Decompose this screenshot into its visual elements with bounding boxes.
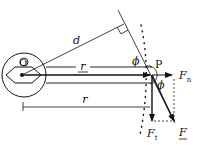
angle-top-label: ϕ	[132, 55, 140, 68]
dotted-arc	[140, 25, 146, 135]
tangential-force-label: Ft	[146, 127, 158, 142]
point-label: P	[155, 58, 163, 71]
torque-diagram: r r d ϕ ϕ P O Fn Ft F	[0, 0, 203, 148]
position-vector-label: r	[80, 60, 86, 73]
angle-bottom-label: ϕ	[157, 79, 165, 92]
lever-arm-label: d	[73, 34, 80, 47]
origin-label: O	[19, 57, 27, 68]
normal-force-label: Fn	[178, 69, 192, 84]
force-label: F	[178, 126, 187, 139]
distance-label: r	[82, 93, 88, 106]
right-angle-marker	[117, 27, 128, 34]
